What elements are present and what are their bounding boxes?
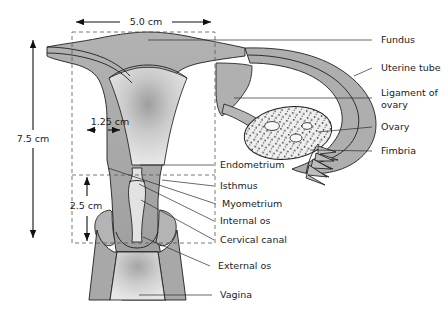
label-endometrium: Endometrium	[220, 159, 285, 170]
dimension-1-25cm-label: 1.25 cm	[91, 116, 130, 127]
dimension-7-5cm-label: 7.5 cm	[17, 133, 50, 144]
uterus-body-group	[47, 32, 376, 300]
ovarian-follicle-2	[290, 134, 302, 142]
dimension-5cm-label: 5.0 cm	[130, 16, 163, 27]
uterus-diagram-canvas: 5.0 cm 7.5 cm 1.25 cm 2.5 cm	[0, 0, 448, 314]
label-cervical-canal: Cervical canal	[220, 234, 287, 245]
label-vagina: Vagina	[220, 289, 252, 300]
dimension-2-5cm-label: 2.5 cm	[70, 200, 103, 211]
label-external-os: External os	[218, 260, 271, 271]
label-ligament-of-ovary-line2: ovary	[381, 99, 408, 110]
leader-uterine-tube	[354, 68, 372, 76]
label-ovary: Ovary	[381, 121, 410, 132]
label-fundus: Fundus	[381, 34, 415, 45]
dimension-7-5cm: 7.5 cm	[17, 40, 50, 238]
label-internal-os: Internal os	[220, 215, 270, 226]
label-fimbria: Fimbria	[381, 145, 416, 156]
label-ligament-of-ovary-line1: Ligament of	[381, 87, 438, 98]
label-myometrium: Myometrium	[222, 198, 282, 209]
leader-isthmus	[162, 180, 214, 186]
anatomical-diagram: 5.0 cm 7.5 cm 1.25 cm 2.5 cm	[0, 0, 448, 314]
label-isthmus: Isthmus	[220, 180, 258, 191]
vagina-lumen	[110, 252, 165, 300]
label-uterine-tube: Uterine tube	[381, 62, 441, 73]
dimension-5cm: 5.0 cm	[76, 16, 211, 27]
ovarian-follicle-3	[302, 123, 312, 130]
ovarian-follicle-1	[265, 122, 280, 131]
